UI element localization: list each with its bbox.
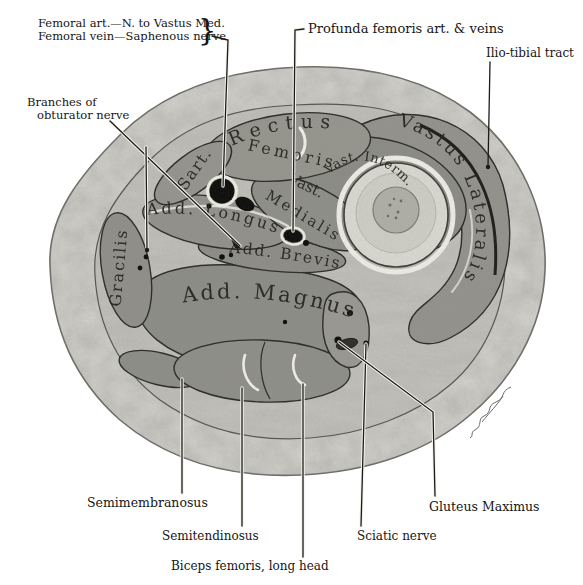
label-semitendinosus: Semitendinosus <box>162 529 259 543</box>
label-biceps-femoris: Biceps femoris, long head <box>171 559 329 573</box>
label-femoral-line1: Femoral art.—N. to Vastus Med. <box>38 16 225 30</box>
figure-root: Sart. Rectus Femoris Vast. Medialis Vast… <box>0 0 583 585</box>
label-semimembranosus: Semimembranosus <box>87 495 208 510</box>
label-obturator-line1: Branches of <box>27 95 97 109</box>
label-obturator-line2: obturator nerve <box>37 108 130 122</box>
cross-section-svg: Sart. Rectus Femoris Vast. Medialis Vast… <box>0 0 583 585</box>
label-gluteus: Gluteus Maximus <box>429 499 540 514</box>
label-femoral-brace: } <box>198 13 216 47</box>
label-profunda: Profunda femoris art. & veins <box>308 21 504 36</box>
label-sciatic: Sciatic nerve <box>357 529 437 543</box>
label-iliotibial: Ilio-tibial tract <box>486 46 574 60</box>
